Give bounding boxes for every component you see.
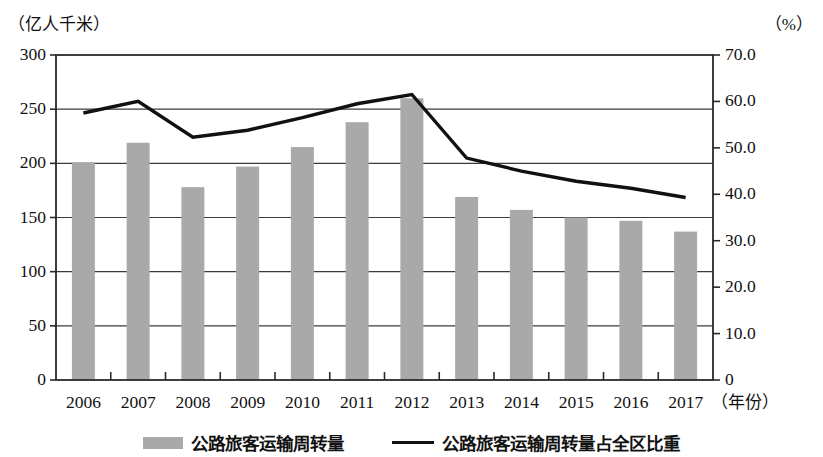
x-axis-unit-label: （年份） bbox=[711, 394, 779, 411]
bar bbox=[619, 221, 642, 380]
left-axis-tick-label: 0 bbox=[37, 371, 46, 389]
right-axis-tick-label: 0 bbox=[725, 371, 734, 389]
legend-item-line-series: 公路旅客运输周转量占全区比重 bbox=[392, 430, 680, 455]
left-axis-tick-label: 300 bbox=[20, 46, 46, 64]
chart-figure: （亿人千米） （%） 050100150200250300010.020.030… bbox=[0, 0, 823, 457]
x-axis-tick-label: 2014 bbox=[494, 394, 549, 412]
legend-item-bar-series: 公路旅客运输周转量 bbox=[143, 430, 344, 455]
chart-legend: 公路旅客运输周转量 公路旅客运输周转量占全区比重 bbox=[0, 428, 823, 457]
x-axis-tick-label: 2006 bbox=[56, 394, 111, 412]
left-axis-tick-label: 50 bbox=[29, 317, 47, 335]
x-axis-tick-label: 2007 bbox=[111, 394, 166, 412]
bar bbox=[510, 210, 533, 380]
line-series-path bbox=[83, 94, 685, 197]
bar bbox=[127, 143, 150, 380]
bar bbox=[181, 187, 204, 380]
bar bbox=[565, 218, 588, 381]
legend-line-swatch-icon bbox=[392, 441, 434, 444]
right-axis-tick-label: 10.0 bbox=[725, 325, 756, 343]
right-axis-tick-label: 40.0 bbox=[725, 185, 756, 203]
x-axis-tick-label: 2015 bbox=[549, 394, 604, 412]
x-axis-tick-label: 2009 bbox=[220, 394, 275, 412]
x-axis-tick-label: 2017 bbox=[658, 394, 713, 412]
x-axis-tick-label: 2013 bbox=[439, 394, 494, 412]
x-axis-tick-label: 2010 bbox=[275, 394, 330, 412]
right-axis-tick-label: 70.0 bbox=[725, 46, 756, 64]
bar bbox=[400, 98, 423, 380]
left-axis-tick-label: 250 bbox=[20, 100, 46, 118]
legend-bar-label: 公路旅客运输周转量 bbox=[191, 430, 344, 455]
left-axis-tick-label: 200 bbox=[20, 154, 46, 172]
bar bbox=[674, 232, 697, 380]
x-axis-tick-label: 2012 bbox=[385, 394, 440, 412]
right-axis-tick-label: 30.0 bbox=[725, 232, 756, 250]
bar bbox=[291, 147, 314, 380]
bar bbox=[72, 162, 95, 380]
bar bbox=[346, 122, 369, 380]
left-axis-tick-label: 150 bbox=[20, 209, 46, 227]
legend-bar-swatch-icon bbox=[143, 437, 183, 449]
bar bbox=[236, 167, 259, 380]
x-axis-tick-label: 2008 bbox=[166, 394, 221, 412]
bar bbox=[455, 197, 478, 380]
left-axis-tick-label: 100 bbox=[20, 263, 46, 281]
right-axis-tick-label: 20.0 bbox=[725, 278, 756, 296]
x-axis-tick-label: 2011 bbox=[330, 394, 385, 412]
right-axis-tick-label: 60.0 bbox=[725, 92, 756, 110]
chart-plot-area bbox=[0, 0, 823, 457]
x-axis-tick-label: 2016 bbox=[604, 394, 659, 412]
legend-line-label: 公路旅客运输周转量占全区比重 bbox=[442, 430, 680, 455]
right-axis-tick-label: 50.0 bbox=[725, 139, 756, 157]
